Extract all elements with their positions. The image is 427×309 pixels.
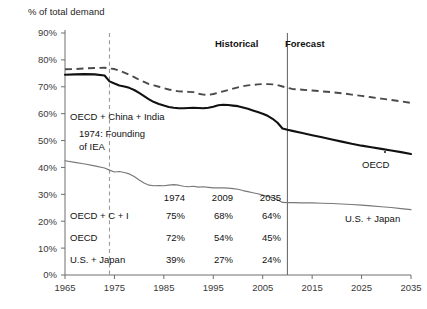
table-cell: 39% <box>166 254 186 265</box>
y-tick-label: 20% <box>38 216 58 227</box>
y-tick-label: 10% <box>38 243 58 254</box>
y-tick-label: 40% <box>38 162 58 173</box>
y-tick-label: 90% <box>38 27 58 38</box>
table-row-label: U.S. + Japan <box>70 254 125 265</box>
x-tick-label: 1965 <box>54 282 75 293</box>
series-line-us-japan <box>65 161 411 210</box>
table-cell: 27% <box>214 254 234 265</box>
x-axis-tick-group: 19651975198519952005201520252035 <box>54 275 421 293</box>
table-row-label: OECD + C + I <box>70 210 129 221</box>
table-cell: 54% <box>214 232 234 243</box>
annotation-oecd-china-india: OECD + China + India <box>70 111 165 122</box>
table-cell: 64% <box>262 210 282 221</box>
x-tick-label: 2015 <box>302 282 323 293</box>
y-tick-label: 80% <box>38 54 58 65</box>
table-column-header: 2009 <box>212 192 233 203</box>
scan-speck-artifact <box>384 151 386 153</box>
annotation-historical: Historical <box>215 38 258 49</box>
y-tick-label: 70% <box>38 81 58 92</box>
annotation-iea-founding-line1: 1974: Founding <box>79 128 145 139</box>
y-axis-title: % of total demand <box>28 6 105 17</box>
x-tick-label: 2005 <box>252 282 273 293</box>
table-cell: 24% <box>262 254 282 265</box>
y-axis-tick-group: 0%10%20%30%40%50%60%70%80%90% <box>38 27 65 280</box>
x-tick-label: 1975 <box>104 282 125 293</box>
x-tick-label: 2025 <box>351 282 372 293</box>
y-tick-label: 50% <box>38 135 58 146</box>
chart-container: % of total demand 0%10%20%30%40%50%60%70… <box>0 0 427 309</box>
series-label-oecd: OECD <box>362 159 390 170</box>
annotation-iea-founding-line2: of IEA <box>79 141 106 152</box>
x-tick-label: 1985 <box>153 282 174 293</box>
x-tick-label: 2035 <box>400 282 421 293</box>
y-tick-label: 0% <box>43 269 57 280</box>
summary-table: 197420092035OECD + C + I75%68%64%OECD72%… <box>70 192 282 265</box>
table-column-header: 2035 <box>260 192 281 203</box>
table-cell: 75% <box>166 210 186 221</box>
table-column-header: 1974 <box>164 192 185 203</box>
y-tick-label: 30% <box>38 189 58 200</box>
series-label-us-japan: U.S. + Japan <box>345 213 400 224</box>
y-tick-label: 60% <box>38 108 58 119</box>
annotation-forecast: Forecast <box>285 38 325 49</box>
x-tick-label: 1995 <box>203 282 224 293</box>
table-cell: 68% <box>214 210 234 221</box>
fossil-fuel-demand-line-chart: % of total demand 0%10%20%30%40%50%60%70… <box>0 0 427 309</box>
table-row-label: OECD <box>70 232 98 243</box>
table-cell: 72% <box>166 232 186 243</box>
table-cell: 45% <box>262 232 282 243</box>
